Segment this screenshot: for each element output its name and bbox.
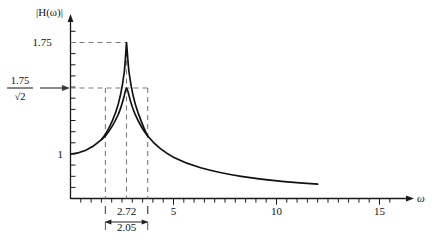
y-axis-arrowhead bbox=[68, 14, 74, 22]
xtick-label-10: 10 bbox=[271, 205, 283, 217]
figure-canvas: |H(ω)| ω 1.75 1.75 √2 1 2.72 2.05 5 10 1… bbox=[0, 0, 432, 250]
half-power-fraction-label: 1.75 √2 bbox=[7, 75, 33, 102]
xtick-label-15: 15 bbox=[374, 205, 386, 217]
xtick-label-5: 5 bbox=[171, 205, 177, 217]
construction-dashed-lines bbox=[71, 43, 148, 199]
half-power-pointer-arrow bbox=[40, 85, 70, 91]
x-axis-ticks bbox=[81, 199, 390, 205]
frequency-response-plot: |H(ω)| ω 1.75 1.75 √2 1 2.72 2.05 5 10 1… bbox=[0, 0, 432, 250]
magnitude-response-curve bbox=[71, 88, 318, 184]
half-power-numerator: 1.75 bbox=[11, 75, 29, 86]
dc-value-label: 1 bbox=[58, 148, 64, 160]
y-axis-title: |H(ω)| bbox=[36, 6, 63, 19]
x-axis-title: ω bbox=[417, 192, 425, 204]
peak-frequency-label: 2.72 bbox=[117, 205, 136, 217]
bandwidth-label: 2.05 bbox=[117, 221, 137, 233]
half-power-denominator: √2 bbox=[14, 91, 25, 102]
y-axis-ticks bbox=[71, 31, 76, 187]
x-axis-arrowhead bbox=[406, 196, 414, 202]
peak-value-label: 1.75 bbox=[32, 36, 52, 48]
